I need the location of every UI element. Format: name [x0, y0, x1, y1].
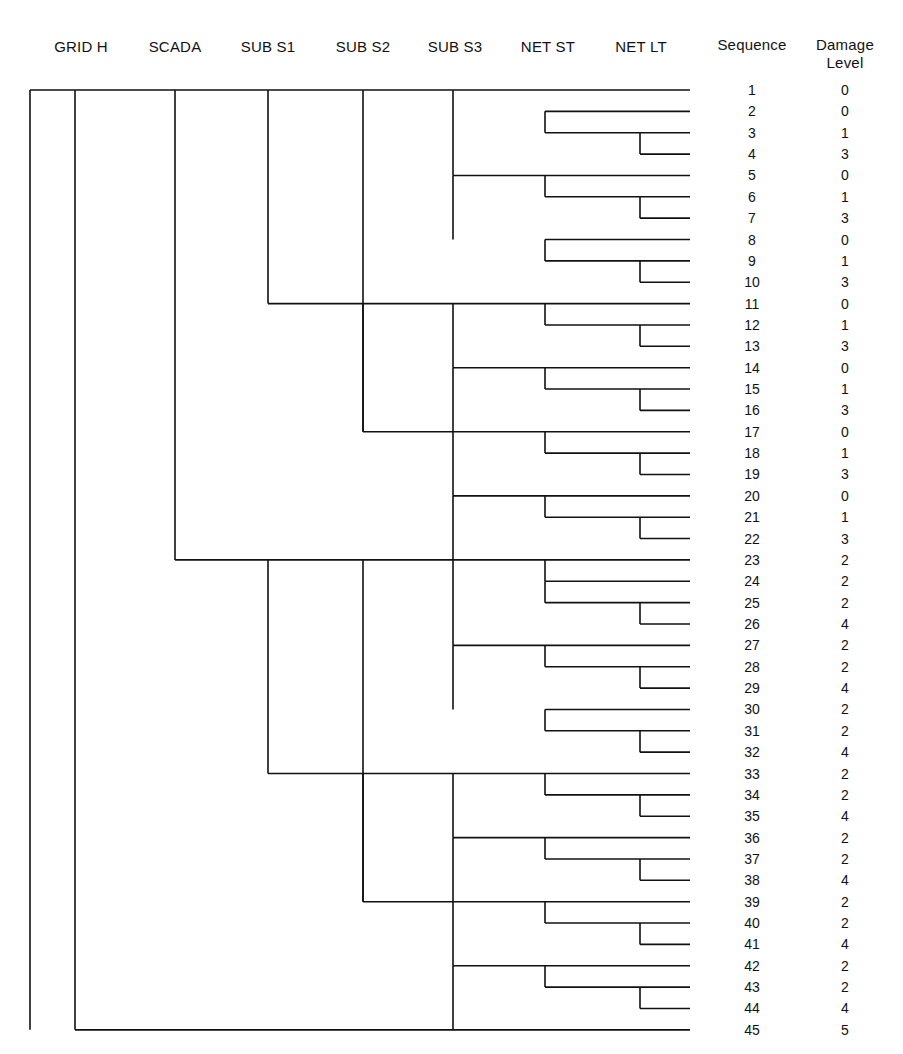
damage-level-value: 0: [815, 168, 875, 182]
damage-level-value: 2: [815, 638, 875, 652]
damage-level-value: 1: [815, 510, 875, 524]
damage-level-value: 1: [815, 446, 875, 460]
damage-level-value: 0: [815, 83, 875, 97]
sequence-value: 37: [722, 852, 782, 866]
damage-level-value: 2: [815, 788, 875, 802]
sequence-value: 19: [722, 467, 782, 481]
damage-level-value: 2: [815, 895, 875, 909]
damage-level-value: 2: [815, 831, 875, 845]
sequence-value: 33: [722, 767, 782, 781]
sequence-value: 29: [722, 681, 782, 695]
damage-level-value: 0: [815, 233, 875, 247]
damage-header-line-1: Damage: [816, 36, 874, 53]
damage-level-value: 3: [815, 339, 875, 353]
damage-level-value: 2: [815, 660, 875, 674]
damage-level-value: 1: [815, 126, 875, 140]
sequence-value: 31: [722, 724, 782, 738]
damage-level-value: 2: [815, 724, 875, 738]
damage-level-value: 0: [815, 425, 875, 439]
damage-level-value: 4: [815, 745, 875, 759]
damage-level-value: 2: [815, 767, 875, 781]
sequence-value: 30: [722, 702, 782, 716]
sequence-value: 23: [722, 553, 782, 567]
damage-level-value: 0: [815, 361, 875, 375]
sequence-value: 15: [722, 382, 782, 396]
sequence-value: 8: [722, 233, 782, 247]
damage-level-value: 1: [815, 382, 875, 396]
column-header-net-lt: NET LT: [581, 38, 701, 55]
sequence-value: 32: [722, 745, 782, 759]
damage-level-value: 1: [815, 254, 875, 268]
sequence-value: 3: [722, 126, 782, 140]
damage-level-value: 3: [815, 532, 875, 546]
sequence-value: 17: [722, 425, 782, 439]
damage-level-value: 3: [815, 147, 875, 161]
damage-level-value: 2: [815, 959, 875, 973]
sequence-value: 21: [722, 510, 782, 524]
sequence-value: 12: [722, 318, 782, 332]
dendrogram-figure: GRID HSCADASUB S1SUB S2SUB S3NET STNET L…: [0, 0, 903, 1054]
damage-level-value: 3: [815, 403, 875, 417]
sequence-value: 25: [722, 596, 782, 610]
damage-level-value: 2: [815, 852, 875, 866]
sequence-value: 40: [722, 916, 782, 930]
sequence-value: 24: [722, 574, 782, 588]
sequence-value: 43: [722, 980, 782, 994]
sequence-value: 35: [722, 809, 782, 823]
sequence-value: 1: [722, 83, 782, 97]
damage-level-value: 2: [815, 916, 875, 930]
damage-level-value: 4: [815, 809, 875, 823]
damage-level-value: 2: [815, 553, 875, 567]
sequence-value: 11: [722, 297, 782, 311]
sequence-value: 13: [722, 339, 782, 353]
sequence-value: 10: [722, 275, 782, 289]
damage-level-value: 4: [815, 873, 875, 887]
sequence-value: 44: [722, 1001, 782, 1015]
sequence-value: 16: [722, 403, 782, 417]
sequence-value: 34: [722, 788, 782, 802]
damage-level-value: 2: [815, 702, 875, 716]
sequence-value: 20: [722, 489, 782, 503]
sequence-value: 5: [722, 168, 782, 182]
damage-level-value: 0: [815, 297, 875, 311]
damage-level-value: 1: [815, 318, 875, 332]
damage-level-value: 3: [815, 211, 875, 225]
damage-level-value: 2: [815, 574, 875, 588]
damage-level-value: 2: [815, 596, 875, 610]
sequence-value: 27: [722, 638, 782, 652]
sequence-value: 6: [722, 190, 782, 204]
damage-level-value: 1: [815, 190, 875, 204]
sequence-value: 39: [722, 895, 782, 909]
damage-level-value: 4: [815, 1001, 875, 1015]
damage-level-value: 3: [815, 275, 875, 289]
sequence-value: 18: [722, 446, 782, 460]
damage-level-value: 4: [815, 937, 875, 951]
damage-level-value: 5: [815, 1023, 875, 1037]
sequence-value: 2: [722, 104, 782, 118]
sequence-value: 26: [722, 617, 782, 631]
sequence-value: 9: [722, 254, 782, 268]
damage-level-value: 4: [815, 617, 875, 631]
sequence-value: 38: [722, 873, 782, 887]
sequence-value: 4: [722, 147, 782, 161]
sequence-value: 36: [722, 831, 782, 845]
sequence-value: 7: [722, 211, 782, 225]
sequence-value: 45: [722, 1023, 782, 1037]
damage-level-value: 2: [815, 980, 875, 994]
tree-branch-lines: [30, 90, 690, 1030]
sequence-value: 28: [722, 660, 782, 674]
damage-level-value: 4: [815, 681, 875, 695]
damage-level-value: 0: [815, 104, 875, 118]
sequence-value: 41: [722, 937, 782, 951]
sequence-value: 42: [722, 959, 782, 973]
column-header-damage-level: DamageLevel: [785, 36, 903, 72]
damage-level-value: 0: [815, 489, 875, 503]
damage-header-line-2: Level: [785, 54, 903, 72]
damage-level-value: 3: [815, 467, 875, 481]
sequence-value: 14: [722, 361, 782, 375]
sequence-value: 22: [722, 532, 782, 546]
